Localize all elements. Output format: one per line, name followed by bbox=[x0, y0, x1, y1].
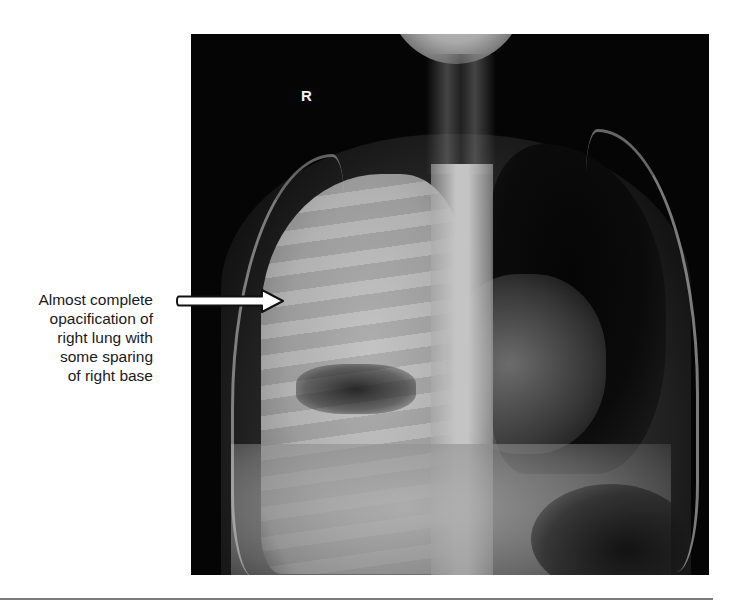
caption-line: some sparing bbox=[0, 347, 153, 366]
caption-line: Almost complete bbox=[0, 290, 153, 309]
caption-line: opacification of bbox=[0, 309, 153, 328]
horizontal-rule bbox=[0, 598, 713, 600]
caption-line: right lung with bbox=[0, 328, 153, 347]
annotation-caption: Almost complete opacification of right l… bbox=[0, 290, 153, 385]
neck-trachea bbox=[426, 54, 496, 174]
caption-line: of right base bbox=[0, 366, 153, 385]
side-marker: R bbox=[301, 87, 312, 104]
arrow-right-icon bbox=[176, 288, 286, 314]
left-rib-cage-contour bbox=[586, 129, 699, 572]
